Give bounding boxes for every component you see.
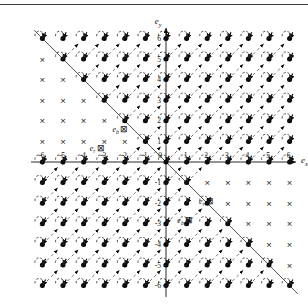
cross-marker: × (60, 95, 66, 106)
dashed-connector (253, 147, 264, 158)
dashed-connector (109, 85, 120, 96)
y-tick-label: 6 (157, 34, 161, 43)
dashed-connector (68, 229, 79, 240)
dashed-connector (47, 229, 58, 240)
dashed-connector (88, 271, 99, 282)
svg-text:eb⊠: eb⊠ (177, 215, 193, 226)
dashed-connector (253, 65, 264, 76)
x-axis-label: ex (301, 155, 308, 167)
dashed-connector (232, 65, 243, 76)
dashed-connector (109, 250, 120, 261)
dashed-connector (191, 85, 202, 96)
x-tick-label: -4 (79, 151, 85, 160)
dashed-connector (171, 147, 182, 158)
dashed-connector (150, 229, 161, 240)
dashed-connector (129, 106, 140, 117)
cross-marker: × (40, 74, 46, 85)
dashed-connector (171, 44, 182, 55)
x-tick-label: 3 (225, 151, 229, 160)
dashed-connector (47, 209, 58, 220)
dashed-connector (212, 126, 223, 137)
dashed-connector (68, 209, 79, 220)
cross-marker: × (60, 136, 66, 147)
dashed-connector (129, 168, 140, 179)
dashed-connector (171, 65, 182, 76)
figure-canvas: ××××××××××××××××××××××××××××××-6-5-4-3-2… (0, 0, 308, 304)
dashed-connector (253, 85, 264, 96)
cross-marker: × (246, 198, 252, 209)
cross-marker: × (246, 177, 252, 188)
dashed-connector (68, 271, 79, 282)
cross-marker: × (81, 136, 87, 147)
cross-marker: × (287, 239, 293, 250)
dashed-connector (109, 188, 120, 199)
dashed-connector (68, 168, 79, 179)
dashed-connector (47, 250, 58, 261)
x-tick-label: -5 (59, 151, 65, 160)
dashed-connector (129, 229, 140, 240)
dashed-connector (212, 44, 223, 55)
y-tick-label: 4 (157, 75, 161, 84)
dashed-connector (232, 271, 243, 282)
cross-marker: × (287, 177, 293, 188)
x-tick-label: -1 (141, 151, 147, 160)
dashed-connector (150, 126, 161, 137)
dashed-connector (150, 188, 161, 199)
dashed-connector (191, 168, 202, 179)
dashed-connector (150, 106, 161, 117)
dashed-connector (171, 271, 182, 282)
cross-marker: × (81, 115, 87, 126)
dashed-connector (191, 271, 202, 282)
cross-marker: × (40, 95, 46, 106)
x-tick-label: 6 (287, 151, 291, 160)
dashed-connector (253, 106, 264, 117)
x-tick-label: -2 (121, 151, 127, 160)
dashed-connector (129, 147, 140, 158)
dashed-connector (109, 209, 120, 220)
dashed-connector (150, 168, 161, 179)
dashed-connector (47, 271, 58, 282)
dashed-connector (191, 44, 202, 55)
dashed-connector (109, 65, 120, 76)
dashed-connector (274, 85, 285, 96)
dashed-connector (232, 126, 243, 137)
dashed-connector (212, 85, 223, 96)
dashed-connector (88, 209, 99, 220)
cross-marker: × (101, 115, 107, 126)
svg-text:er⊠: er⊠ (199, 196, 214, 207)
dashed-connector (274, 65, 285, 76)
dashed-connector (212, 65, 223, 76)
dashed-connector (171, 250, 182, 261)
dashed-connector (109, 229, 120, 240)
cross-marker: × (40, 136, 46, 147)
cross-marker: × (40, 54, 46, 65)
dashed-connector (88, 44, 99, 55)
x-tick-label: 2 (204, 151, 208, 160)
dashed-connector (88, 65, 99, 76)
dashed-connector (129, 65, 140, 76)
dashed-connector (109, 168, 120, 179)
dashed-connector (68, 44, 79, 55)
dashed-connector (191, 147, 202, 158)
dashed-connector (171, 106, 182, 117)
y-tick-label: -2 (155, 199, 161, 208)
cross-marker: × (225, 177, 231, 188)
dashed-connector (129, 85, 140, 96)
dashed-connector (129, 188, 140, 199)
y-tick-label: -5 (155, 261, 161, 270)
dashed-connector (150, 250, 161, 261)
origin-label: 0 (158, 151, 162, 160)
y-tick-label: 5 (157, 55, 161, 64)
dashed-connector (150, 65, 161, 76)
svg-text:er⊠: er⊠ (90, 143, 105, 154)
dashed-connector (109, 271, 120, 282)
cross-marker: × (287, 260, 293, 271)
y-tick-label: 3 (157, 96, 161, 105)
dashed-connector (232, 147, 243, 158)
y-axis-label: ey (155, 16, 162, 28)
x-tick-label: 5 (266, 151, 270, 160)
dashed-connector (68, 188, 79, 199)
cross-marker: × (287, 218, 293, 229)
dashed-connector (212, 229, 223, 240)
dashed-connector (68, 250, 79, 261)
